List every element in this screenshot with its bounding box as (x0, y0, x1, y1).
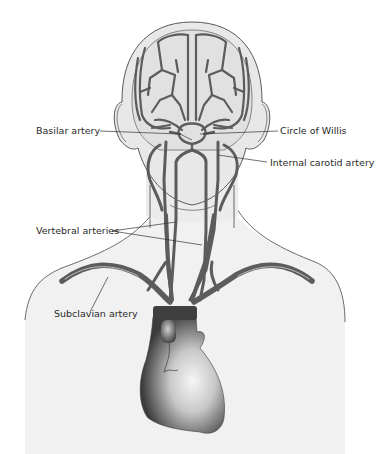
label-subclavian-artery: Subclavian artery (54, 308, 138, 319)
label-circle-of-willis: Circle of Willis (280, 125, 347, 136)
aortic-arch (153, 306, 197, 320)
pulmonary-trunk (161, 320, 176, 343)
label-basilar-artery: Basilar artery (36, 125, 100, 136)
brain-outline (132, 30, 252, 150)
label-vertebral-arteries: Vertebral arteries (36, 225, 119, 236)
label-internal-carotid-artery: Internal carotid artery (270, 157, 374, 168)
